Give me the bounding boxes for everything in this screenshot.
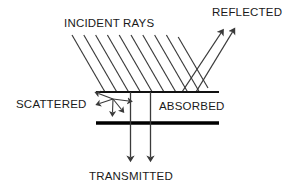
reflected-rays-group <box>182 32 233 92</box>
diagram-canvas: INCIDENT RAYS REFLECTED SCATTERED ABSORB… <box>0 0 299 190</box>
radiation-interaction-diagram: INCIDENT RAYS REFLECTED SCATTERED ABSORB… <box>0 0 299 190</box>
scattered-ray <box>113 99 114 113</box>
label-transmitted: TRANSMITTED <box>89 170 173 182</box>
scattered-arrows-group <box>99 94 129 113</box>
label-incident-rays: INCIDENT RAYS <box>64 17 154 29</box>
scattered-ray <box>99 94 114 100</box>
scattered-ray <box>113 99 129 101</box>
scattered-ray <box>100 99 114 104</box>
label-reflected: REFLECTED <box>212 6 282 18</box>
scattered-ray <box>113 99 122 110</box>
label-scattered: SCATTERED <box>16 98 87 110</box>
label-absorbed: ABSORBED <box>159 100 225 112</box>
